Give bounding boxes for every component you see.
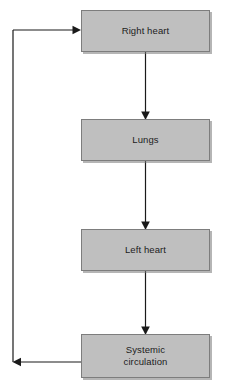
arrowhead-left-icon bbox=[13, 358, 22, 367]
connector-right-heart-to-lungs bbox=[141, 52, 150, 120]
connector-layer bbox=[0, 0, 226, 385]
node-systemic-circulation-label: Systemic circulation bbox=[120, 344, 172, 369]
node-systemic-circulation: Systemic circulation bbox=[81, 334, 210, 378]
arrowhead-right-icon bbox=[73, 26, 82, 35]
node-right-heart: Right heart bbox=[81, 10, 210, 52]
node-right-heart-label: Right heart bbox=[118, 25, 174, 38]
connector-lungs-to-left-heart bbox=[141, 161, 150, 230]
connector-left-heart-to-systemic bbox=[141, 271, 150, 335]
node-lungs: Lungs bbox=[81, 119, 210, 161]
node-lungs-label: Lungs bbox=[128, 134, 162, 147]
circulation-flow-diagram: Right heart Lungs Left heart Systemic ci… bbox=[0, 0, 226, 385]
connector-feedback-loop bbox=[13, 26, 82, 367]
node-left-heart-label: Left heart bbox=[121, 244, 170, 257]
node-left-heart: Left heart bbox=[81, 229, 210, 271]
